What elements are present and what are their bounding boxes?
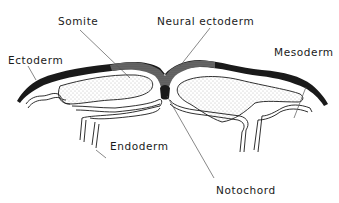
diagram-drawing — [0, 0, 339, 203]
embryo-diagram: Somite Neural ectoderm Ectoderm Mesoderm… — [0, 0, 339, 203]
label-neural-ectoderm: Neural ectoderm — [157, 16, 254, 27]
label-mesoderm: Mesoderm — [274, 47, 334, 58]
notochord-shape — [160, 85, 170, 100]
label-notochord: Notochord — [216, 185, 276, 196]
somite-left — [58, 75, 152, 104]
label-ectoderm: Ectoderm — [8, 55, 63, 66]
label-somite: Somite — [58, 16, 98, 27]
label-endoderm: Endoderm — [110, 141, 169, 152]
somite-right — [177, 77, 303, 122]
